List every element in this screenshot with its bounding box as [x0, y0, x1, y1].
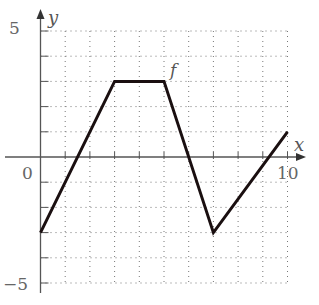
x-max-label: 10 — [277, 165, 299, 182]
x-axis-label: x — [294, 136, 304, 154]
y-max-label: 5 — [9, 20, 20, 37]
y-min-label: −5 — [3, 276, 28, 293]
origin-label: 0 — [22, 165, 33, 182]
y-axis-label: y — [48, 9, 58, 27]
function-label: f — [170, 62, 176, 79]
function-graph: 5 −5 0 10 y x f — [0, 0, 319, 305]
plot-area — [0, 0, 319, 305]
